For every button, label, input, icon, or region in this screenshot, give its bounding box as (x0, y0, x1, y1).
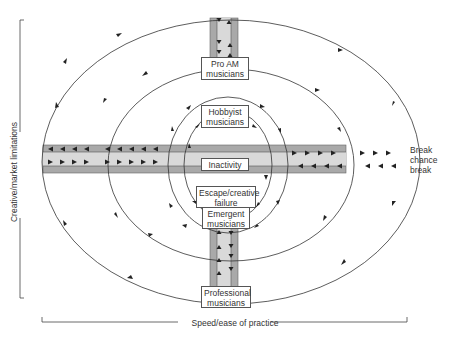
node-inactivity: Inactivity (201, 158, 249, 171)
node-pro-am-line1: Pro AM (204, 59, 246, 69)
node-professional-musicians: Professional musicians (201, 286, 251, 308)
node-emergent-musicians: Emergent musicians (202, 207, 250, 229)
node-hobbyist-line2: musicians (204, 117, 246, 127)
node-escape-creative-failure: Escape/creative failure (196, 186, 256, 208)
node-professional-line1: Professional (204, 288, 248, 298)
vertical-band-bottom (210, 227, 238, 287)
break-label-line3: break (410, 165, 437, 175)
break-label-line2: chance (410, 155, 437, 165)
break-label-line1: Break (410, 145, 437, 155)
node-emergent-line1: Emergent (205, 209, 247, 219)
x-axis-label: Speed/ease of practice (40, 318, 430, 328)
node-hobbyist-line1: Hobbyist (204, 107, 246, 117)
y-axis-label: Creative/market limitations (9, 122, 19, 222)
node-inactivity-label: Inactivity (204, 160, 246, 170)
node-hobbyist-musicians: Hobbyist musicians (201, 105, 249, 128)
node-emergent-line2: musicians (205, 219, 247, 229)
vertical-band-top (210, 18, 238, 58)
break-chance-break-label: Break chance break (410, 145, 437, 175)
node-pro-am-musicians: Pro AM musicians (201, 57, 249, 80)
node-escape-line1: Escape/creative (199, 188, 253, 198)
node-professional-line2: musicians (204, 298, 248, 308)
y-axis-bracket (20, 20, 24, 298)
x-axis: Speed/ease of practice (40, 318, 430, 328)
node-pro-am-line2: musicians (204, 69, 246, 79)
